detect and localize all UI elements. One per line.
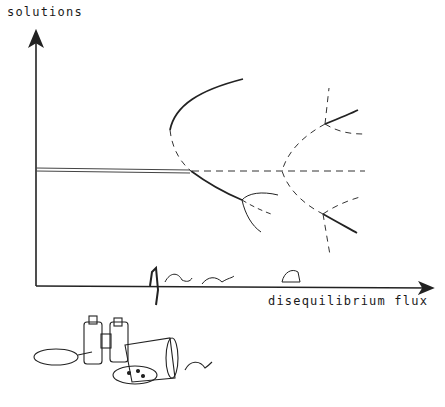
binoculars-icon [84,322,102,364]
fork-unstable [242,200,274,215]
lower-secondary-stable [323,214,357,233]
fork-lower [242,200,261,232]
upper-secondary-dashed-up [325,88,329,124]
x-axis-arrow [36,286,432,288]
fork-upper [242,193,278,200]
lower-secondary-dashed-down [323,214,330,255]
lower-secondary-unstable [323,197,360,214]
magnifying-glass-icon [34,349,78,365]
y-axis-label: solutions [7,5,83,19]
trivial-stable-branch [36,168,190,173]
upper-unstable-segment [170,130,191,171]
lab-equipment-illustration [34,316,212,384]
x-axis-label: disequilibrium flux [268,294,428,308]
secondary-unstable-parabola [282,124,325,214]
bifurcation-diagram [0,0,445,407]
axes [36,32,432,288]
upper-secondary-unstable [325,124,364,134]
upper-stable-branch [170,79,243,130]
lower-stable-branch [191,171,242,200]
upper-secondary-stable [325,110,358,124]
